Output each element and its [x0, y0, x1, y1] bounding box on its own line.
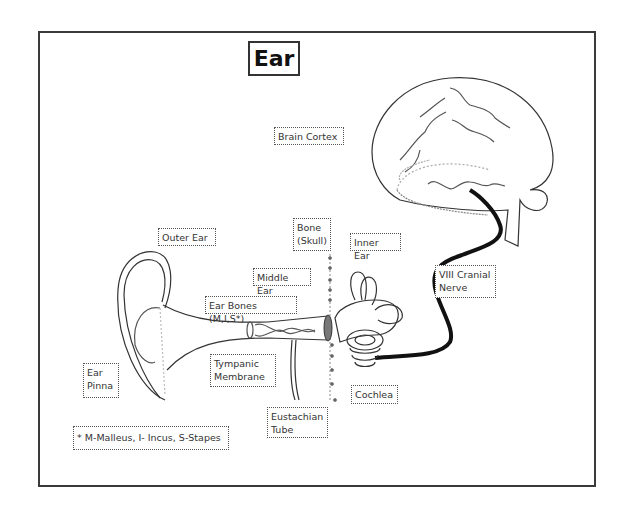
tympanic-membrane-icon — [324, 315, 332, 341]
label-bone-skull: Bone (Skull) — [293, 218, 331, 251]
eustachian-tube-icon — [291, 340, 299, 400]
label-ear-bones: Ear Bones (M,I,S*) — [205, 296, 297, 314]
inner-ear-icon — [335, 272, 402, 367]
label-eustachian-tube: Eustachian Tube — [267, 407, 328, 438]
diagram-title: Ear — [248, 41, 300, 76]
label-inner-ear: Inner Ear — [350, 233, 401, 251]
label-viii-cranial-nerve: VIII Cranial Nerve — [435, 265, 496, 298]
label-outer-ear: Outer Ear — [158, 228, 216, 246]
label-brain-cortex: Brain Cortex — [274, 127, 344, 145]
label-cochlea: Cochlea — [351, 385, 398, 404]
brain-icon — [372, 78, 553, 246]
footnote-ossicles: * M-Malleus, I- Incus, S-Stapes — [73, 426, 229, 450]
ear-pinna-icon — [118, 252, 171, 400]
label-ear-pinna: Ear Pinna — [83, 363, 119, 398]
label-middle-ear: Middle Ear — [253, 268, 311, 286]
label-tympanic-membrane: Tympanic Membrane — [210, 354, 276, 387]
